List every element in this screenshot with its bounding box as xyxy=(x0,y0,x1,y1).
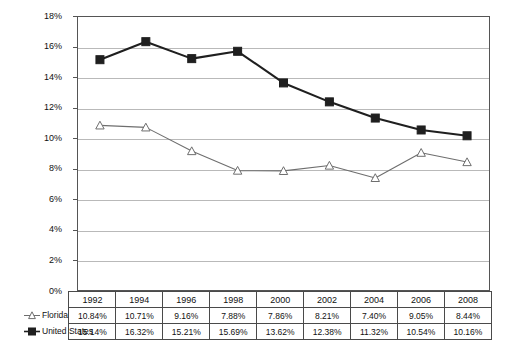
gridline xyxy=(78,170,489,171)
table-value-cell: 16.32% xyxy=(116,324,163,340)
y-axis-tick-label: 14% xyxy=(44,73,62,82)
table-value-cell: 11.32% xyxy=(351,324,398,340)
table-value-cell: 12.38% xyxy=(304,324,351,340)
y-axis-tick-label: 8% xyxy=(49,164,62,173)
gridline xyxy=(78,200,489,201)
legend-entry-united-states[interactable]: United States xyxy=(22,324,69,340)
gridline xyxy=(78,139,489,140)
legend-entry-label: Florida xyxy=(42,311,68,320)
table-year-header: 2008 xyxy=(444,292,491,308)
y-axis-tick-label: 6% xyxy=(49,195,62,204)
table-value-cell: 10.84% xyxy=(69,308,116,324)
table-year-header: 2002 xyxy=(304,292,351,308)
y-axis-tick-label: 4% xyxy=(49,225,62,234)
gridline xyxy=(78,48,489,49)
table-year-header: 2006 xyxy=(398,292,445,308)
table-year-header: 2004 xyxy=(351,292,398,308)
y-axis-tick-label: 2% xyxy=(49,256,62,265)
table-header-row: 199219941996199820002002200420062008 xyxy=(22,292,492,308)
legend-marker-square-icon xyxy=(24,327,40,336)
table-value-cell: 7.86% xyxy=(257,308,304,324)
table-value-cell: 10.71% xyxy=(116,308,163,324)
table-value-cell: 13.62% xyxy=(257,324,304,340)
legend-marker-triangle-icon xyxy=(24,311,40,320)
table-value-cell: 8.21% xyxy=(304,308,351,324)
table-year-header: 1998 xyxy=(210,292,257,308)
table-value-cell: 7.40% xyxy=(351,308,398,324)
y-axis-tick-label: 16% xyxy=(44,42,62,51)
table-value-cell: 9.05% xyxy=(398,308,445,324)
table-year-header: 1996 xyxy=(163,292,210,308)
table-value-cell: 10.16% xyxy=(444,324,491,340)
table-value-cell: 8.44% xyxy=(444,308,491,324)
table-year-header: 1994 xyxy=(116,292,163,308)
data-table: 199219941996199820002002200420062008Flor… xyxy=(22,291,492,340)
table-value-cell: 9.16% xyxy=(163,308,210,324)
table-row: United States15.14%16.32%15.21%15.69%13.… xyxy=(22,324,492,340)
legend-entry-inner: United States xyxy=(24,327,68,336)
y-axis-tick-label: 12% xyxy=(44,103,62,112)
gridline xyxy=(78,109,489,110)
gridline xyxy=(78,78,489,79)
table-value-cell: 15.21% xyxy=(163,324,210,340)
gridline xyxy=(78,231,489,232)
table-year-header: 1992 xyxy=(69,292,116,308)
table-value-cell: 10.54% xyxy=(398,324,445,340)
gridline xyxy=(78,261,489,262)
table-corner-cell xyxy=(22,292,69,308)
y-axis-tick-label: 18% xyxy=(44,12,62,21)
line-chart: 0%2%4%6%8%10%12%14%16%18% 19921994199619… xyxy=(0,0,519,353)
legend-entry-florida[interactable]: Florida xyxy=(22,308,69,324)
gridlines xyxy=(78,17,489,290)
table-row: Florida10.84%10.71%9.16%7.88%7.86%8.21%7… xyxy=(22,308,492,324)
y-axis-tick-label: 10% xyxy=(44,134,62,143)
table-value-cell: 7.88% xyxy=(210,308,257,324)
table-year-header: 2000 xyxy=(257,292,304,308)
table-value-cell: 15.69% xyxy=(210,324,257,340)
plot-area xyxy=(77,16,490,291)
legend-entry-inner: Florida xyxy=(24,311,68,320)
